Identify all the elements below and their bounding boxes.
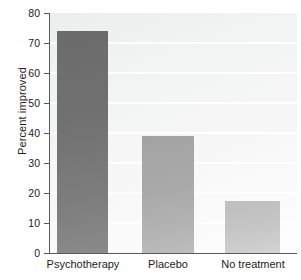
y-tick-label: 80 bbox=[0, 8, 40, 19]
x-category-label-placebo: Placebo bbox=[124, 258, 212, 270]
y-tick-mark bbox=[44, 43, 49, 44]
x-axis-line bbox=[49, 253, 297, 254]
bar-psychotherapy bbox=[57, 31, 108, 253]
y-tick-label: 70 bbox=[0, 38, 40, 49]
y-tick-mark bbox=[44, 13, 49, 14]
y-tick-label: 20 bbox=[0, 188, 40, 199]
y-tick-label: 40 bbox=[0, 128, 40, 139]
plot-area bbox=[50, 13, 297, 253]
y-tick-mark bbox=[44, 73, 49, 74]
y-tick-label: 60 bbox=[0, 68, 40, 79]
bar-placebo bbox=[142, 136, 194, 253]
bar-no-treatment bbox=[225, 201, 280, 254]
y-tick-mark bbox=[44, 253, 49, 254]
y-tick-mark bbox=[44, 103, 49, 104]
x-category-label-no-treatment: No treatment bbox=[205, 258, 301, 270]
y-tick-mark bbox=[44, 133, 49, 134]
y-tick-label: 50 bbox=[0, 98, 40, 109]
y-axis-line bbox=[49, 13, 50, 254]
y-tick-mark bbox=[44, 163, 49, 164]
y-tick-label: 30 bbox=[0, 158, 40, 169]
y-tick-label: 10 bbox=[0, 218, 40, 229]
y-tick-mark bbox=[44, 223, 49, 224]
y-tick-label: 0 bbox=[0, 248, 40, 259]
y-tick-mark bbox=[44, 193, 49, 194]
bar-chart-figure: Percent improved 80 70 60 50 40 30 20 10… bbox=[0, 0, 301, 280]
